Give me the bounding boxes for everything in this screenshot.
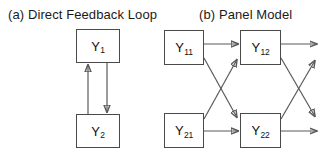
node-y2: Y2 [76,114,120,148]
edge-y12-continuation-cross-down [281,58,315,117]
node-y1-label: Y1 [91,40,104,53]
figure-panel-model-diagram: (a) Direct Feedback Loop (b) Panel Model [0,0,328,163]
panel-a-edges [88,63,107,114]
node-y22-label: Y22 [251,124,269,137]
node-y11-label: Y11 [175,41,193,54]
node-y2-label: Y2 [91,125,104,138]
edge-y21-to-y12 [204,60,237,120]
edge-y11-to-y22 [204,58,237,118]
edge-y22-continuation-cross-up [281,61,315,120]
node-y21-label: Y21 [175,124,193,137]
node-y12: Y12 [240,30,281,65]
node-y1: Y1 [76,29,120,63]
node-y12-label: Y12 [251,41,269,54]
node-y22: Y22 [240,113,281,148]
node-y21: Y21 [164,113,204,148]
node-y11: Y11 [164,30,204,65]
